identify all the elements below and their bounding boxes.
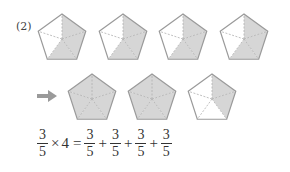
fraction-lhs: 3 5 <box>37 128 48 159</box>
numerator: 3 <box>135 128 146 143</box>
denominator: 5 <box>161 143 172 159</box>
plus-sign: + <box>98 135 106 152</box>
multiplier: 4 <box>61 135 69 152</box>
plus-sign: + <box>149 135 157 152</box>
pentagon-bottom-2 <box>126 72 178 122</box>
plus-sign: + <box>124 135 132 152</box>
numerator: 3 <box>161 128 172 143</box>
pentagon-top-4 <box>218 12 270 62</box>
numerator: 3 <box>110 128 121 143</box>
pentagon-top-1 <box>36 12 88 62</box>
numerator: 3 <box>37 128 48 143</box>
times-sign: × <box>51 135 59 152</box>
denominator: 5 <box>110 143 121 159</box>
fraction-term-4: 3 5 <box>161 128 172 159</box>
pentagon-top-2 <box>97 12 149 62</box>
problem-label: (2) <box>16 20 32 33</box>
right-arrow-icon <box>37 90 57 102</box>
denominator: 5 <box>135 143 146 159</box>
fraction-term-3: 3 5 <box>135 128 146 159</box>
numerator: 3 <box>84 128 95 143</box>
denominator: 5 <box>37 143 48 159</box>
fraction-term-2: 3 5 <box>110 128 121 159</box>
equals-sign: = <box>73 135 81 152</box>
fraction-term-1: 3 5 <box>84 128 95 159</box>
pentagon-bottom-3 <box>186 72 238 122</box>
equation: 3 5 × 4 = 3 5 + 3 5 + 3 5 + 3 5 <box>36 128 173 159</box>
pentagon-bottom-1 <box>66 72 118 122</box>
denominator: 5 <box>84 143 95 159</box>
pentagon-top-3 <box>157 12 209 62</box>
